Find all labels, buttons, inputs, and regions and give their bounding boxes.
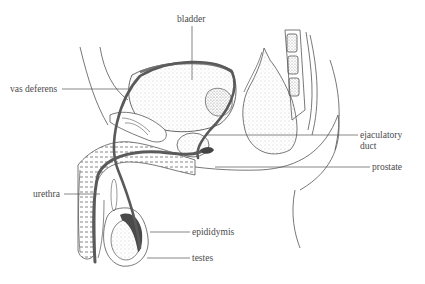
label-prostate: prostate (372, 162, 402, 172)
label-duct: duct (360, 141, 376, 151)
label-ejaculatory: ejaculatory (360, 130, 402, 140)
anatomy-diagram: bladder vas deferens ejaculatory duct pr… (0, 0, 425, 284)
label-epididymis: epididymis (192, 227, 234, 237)
label-testes: testes (192, 253, 213, 263)
label-vas-deferens: vas deferens (10, 84, 57, 94)
label-bladder: bladder (177, 14, 206, 24)
label-urethra: urethra (33, 189, 60, 199)
leader-lines (62, 26, 370, 258)
